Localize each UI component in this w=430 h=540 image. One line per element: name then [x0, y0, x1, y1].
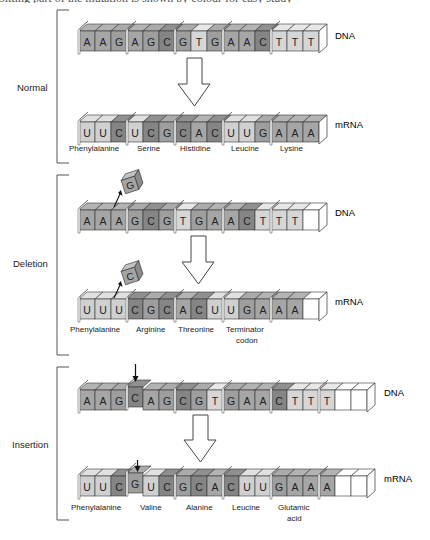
base-letter: A	[83, 215, 90, 227]
bracket-normal	[57, 10, 69, 163]
base-letter: A	[195, 127, 202, 139]
base-letter: G	[211, 36, 219, 48]
base-letter: C	[131, 392, 139, 404]
base-letter: A	[83, 395, 90, 407]
base-letter: A	[291, 481, 298, 493]
amino-acid-label: Serine	[137, 144, 161, 153]
transcription-arrow-insertion	[184, 415, 216, 462]
dna-strip-normal: AAGAGCGTGAACTTT	[78, 21, 327, 54]
base-letter: T	[292, 215, 299, 227]
base-letter: G	[163, 215, 171, 227]
strand-label-mrna-deletion: mRNA	[335, 296, 364, 307]
base-letter: A	[227, 36, 234, 48]
mutation-diagram: Normal Deletion Insertion AAGAGCGTGAACTT…	[0, 0, 430, 540]
base-letter: A	[275, 304, 282, 316]
base-letter: T	[260, 215, 267, 227]
base-letter: G	[259, 127, 267, 139]
section-label-deletion: Deletion	[13, 258, 48, 269]
amino-acid-label: acid	[287, 514, 302, 523]
strips-layer: AAGAGCGTGAACTTTUUCUCGCACUUGAAAAAAGCGTGAA…	[78, 21, 375, 499]
base-letter: A	[115, 215, 122, 227]
base-letter: U	[83, 304, 91, 316]
base-letter: A	[307, 481, 314, 493]
base-letter: C	[227, 481, 235, 493]
base-letter: T	[292, 395, 299, 407]
base-letter: C	[131, 304, 139, 316]
base-letter: U	[227, 127, 235, 139]
base-letter: A	[147, 395, 154, 407]
base-letter: G	[195, 215, 203, 227]
amino-acid-label: codon	[236, 336, 258, 345]
base-letter: C	[275, 395, 283, 407]
base-letter: T	[324, 395, 331, 407]
base-letter: A	[259, 304, 266, 316]
base-letter: G	[147, 304, 155, 316]
base-letter: U	[243, 481, 251, 493]
transcription-arrow-normal	[178, 58, 210, 106]
arrow-up-icon	[118, 281, 123, 287]
bracket-deletion	[57, 175, 69, 355]
removed-dna-base-cube: G	[120, 170, 145, 194]
base-letter: C	[179, 395, 187, 407]
base-letter: U	[259, 481, 267, 493]
base-letter: A	[211, 215, 218, 227]
base-letter: A	[99, 36, 106, 48]
base-letter: U	[99, 481, 107, 493]
base-letter: T	[276, 36, 283, 48]
base-letter: G	[163, 395, 171, 407]
base-letter: A	[99, 395, 106, 407]
base-letter: G	[275, 481, 283, 493]
base-letter: C	[211, 127, 219, 139]
mrna-strip-insertion: UUCGUCGCACUUGAAA	[78, 463, 375, 499]
base-letter: C	[163, 36, 171, 48]
base-letter: G	[115, 395, 123, 407]
base-letter: G	[131, 478, 139, 490]
base-letter: A	[243, 36, 250, 48]
base-letter: T	[180, 215, 187, 227]
amino-acids-insertion: Phenylalanine Valine Alanine Leucine Glu…	[71, 503, 310, 523]
strand-label-dna-normal: DNA	[335, 30, 356, 41]
base-letter: U	[83, 127, 91, 139]
amino-acids-normal: Phenylalanine Serine Histidine Leucine L…	[69, 144, 303, 153]
amino-acid-label: Lysine	[280, 144, 303, 153]
base-letter: T	[292, 36, 299, 48]
base-letter: U	[147, 481, 155, 493]
base-letter: A	[323, 481, 330, 493]
base-letter: G	[195, 395, 203, 407]
base-letter: C	[115, 481, 123, 493]
base-letter: U	[83, 481, 91, 493]
base-letter: A	[211, 481, 218, 493]
section-label-insertion: Insertion	[12, 439, 48, 450]
base-letter: C	[259, 36, 267, 48]
base-letter: C	[147, 215, 155, 227]
base-letter: T	[308, 36, 315, 48]
base-letter: T	[276, 215, 283, 227]
base-letter: A	[227, 215, 234, 227]
strand-label-dna-insertion: DNA	[384, 387, 405, 398]
base-letter: A	[291, 304, 298, 316]
transcription-arrow-deletion	[182, 236, 214, 284]
base-letter: A	[131, 36, 138, 48]
amino-acid-label: Histidine	[180, 144, 211, 153]
bracket-insertion	[57, 367, 69, 520]
base-letter: T	[196, 36, 203, 48]
base-letter: C	[115, 127, 123, 139]
base-letter: G	[227, 395, 235, 407]
removed-base-cubes: GC	[114, 170, 145, 298]
base-letter: U	[211, 304, 219, 316]
base-letter: G	[115, 36, 123, 48]
base-letter: U	[115, 304, 123, 316]
amino-acid-label: Leucine	[232, 503, 261, 512]
base-letter: U	[131, 127, 139, 139]
base-letter: T	[308, 395, 315, 407]
base-letter: A	[83, 36, 90, 48]
mrna-strip-normal: UUCUCGCACUUGAAA	[78, 112, 327, 145]
amino-acid-label: Alanine	[186, 503, 213, 512]
amino-acid-label: Glutamic	[278, 503, 310, 512]
base-letter: G	[163, 127, 171, 139]
amino-acid-label: Leucine	[231, 144, 260, 153]
base-letter: G	[131, 215, 139, 227]
arrow-up-icon	[118, 190, 123, 196]
base-letter: C	[163, 304, 171, 316]
base-letter: A	[243, 395, 250, 407]
